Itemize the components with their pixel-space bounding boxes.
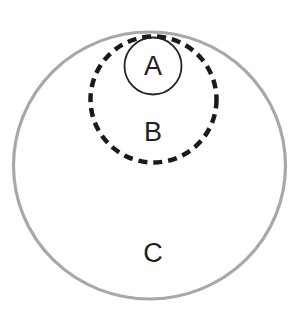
- circle-a: A: [125, 38, 182, 95]
- circle-c-label: C: [143, 238, 163, 268]
- circle-a-label: A: [144, 51, 162, 81]
- circle-b-label: B: [144, 117, 162, 147]
- venn-diagram: C B A: [0, 0, 288, 317]
